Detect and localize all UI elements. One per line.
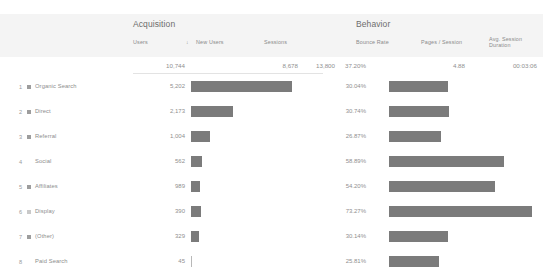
row-rank: 4 bbox=[14, 159, 22, 165]
users-bar bbox=[191, 206, 201, 217]
channel-name-link[interactable]: Paid Search bbox=[35, 258, 68, 264]
bounce-rate-bar bbox=[389, 131, 441, 142]
users-value: 329 bbox=[175, 233, 185, 239]
users-bar bbox=[191, 156, 202, 167]
table-row[interactable]: 7(Other)32930.14% bbox=[0, 226, 543, 251]
bounce-rate-value: 30.74% bbox=[346, 108, 366, 114]
channel-name-link[interactable]: Direct bbox=[35, 108, 51, 114]
row-color-swatch-icon bbox=[27, 260, 31, 264]
users-bar bbox=[191, 231, 199, 242]
column-header-sessions[interactable]: Sessions bbox=[264, 39, 287, 45]
row-color-swatch-icon bbox=[27, 210, 31, 214]
table-row[interactable]: 4Social56258.89% bbox=[0, 151, 543, 176]
total-bounce-rate: 37.20% bbox=[345, 62, 366, 69]
channel-name-link[interactable]: Referral bbox=[35, 133, 56, 139]
total-pages-session: 4.88 bbox=[453, 62, 465, 69]
users-value: 5,202 bbox=[170, 83, 185, 89]
column-header-new-users[interactable]: New Users bbox=[196, 39, 224, 45]
table-row[interactable]: 5Affiliates98954.20% bbox=[0, 176, 543, 201]
row-color-swatch-icon bbox=[27, 185, 31, 189]
total-sessions: 13,800 bbox=[316, 62, 335, 69]
column-header-pages-session[interactable]: Pages / Session bbox=[421, 39, 462, 45]
users-value: 2,173 bbox=[170, 108, 185, 114]
row-color-swatch-icon bbox=[27, 235, 31, 239]
table-header-band bbox=[0, 14, 543, 57]
bounce-rate-bar bbox=[389, 156, 504, 167]
row-rank: 6 bbox=[14, 209, 22, 215]
bounce-rate-value: 26.87% bbox=[346, 133, 366, 139]
users-bar bbox=[191, 181, 200, 192]
table-row[interactable]: 6Display39073.27% bbox=[0, 201, 543, 226]
bounce-rate-bar bbox=[389, 256, 439, 267]
total-avg-duration: 00:03:06 bbox=[513, 62, 537, 69]
bounce-rate-bar bbox=[389, 181, 495, 192]
bounce-rate-value: 30.04% bbox=[346, 83, 366, 89]
bounce-rate-bar bbox=[389, 231, 448, 242]
column-group-behavior: Behavior bbox=[356, 19, 390, 29]
users-bar bbox=[191, 106, 233, 117]
row-rank: 3 bbox=[14, 134, 22, 140]
users-bar bbox=[191, 256, 192, 267]
row-color-swatch-icon bbox=[27, 135, 31, 139]
bounce-rate-value: 58.89% bbox=[346, 158, 366, 164]
channel-name-link[interactable]: Display bbox=[35, 208, 55, 214]
bounce-rate-bar bbox=[389, 206, 532, 217]
table-row[interactable]: 3Referral1,00426.87% bbox=[0, 126, 543, 151]
row-color-swatch-icon bbox=[27, 160, 31, 164]
column-header-users[interactable]: Users bbox=[133, 39, 148, 45]
totals-divider bbox=[133, 73, 323, 74]
table-row[interactable]: 2Direct2,17330.74% bbox=[0, 101, 543, 126]
row-rank: 8 bbox=[14, 259, 22, 265]
row-rank: 1 bbox=[14, 84, 22, 90]
row-color-swatch-icon bbox=[27, 85, 31, 89]
total-new-users: 8,678 bbox=[283, 62, 298, 69]
bounce-rate-bar bbox=[389, 106, 449, 117]
column-header-avg-duration-line2: Duration bbox=[489, 42, 511, 48]
column-header-bounce-rate[interactable]: Bounce Rate bbox=[356, 39, 389, 45]
row-color-swatch-icon bbox=[27, 110, 31, 114]
users-value: 45 bbox=[178, 258, 185, 264]
column-group-acquisition: Acquisition bbox=[133, 19, 175, 29]
bounce-rate-value: 30.14% bbox=[346, 233, 366, 239]
bounce-rate-value: 25.81% bbox=[346, 258, 366, 264]
users-value: 562 bbox=[175, 158, 185, 164]
row-rank: 5 bbox=[14, 184, 22, 190]
analytics-channels-report: Acquisition Behavior Users ↓ New Users S… bbox=[0, 0, 543, 279]
users-bar bbox=[191, 131, 210, 142]
total-users: 10,744 bbox=[166, 62, 185, 69]
bounce-rate-value: 54.20% bbox=[346, 183, 366, 189]
channel-name-link[interactable]: Organic Search bbox=[35, 83, 77, 89]
users-bar bbox=[191, 81, 292, 92]
row-rank: 7 bbox=[14, 234, 22, 240]
table-row[interactable]: 1Organic Search5,20230.04% bbox=[0, 76, 543, 101]
sort-descending-icon[interactable]: ↓ bbox=[186, 39, 189, 45]
row-rank: 2 bbox=[14, 109, 22, 115]
users-value: 390 bbox=[175, 208, 185, 214]
users-value: 1,004 bbox=[170, 133, 185, 139]
channel-name-link[interactable]: (Other) bbox=[35, 233, 54, 239]
channel-name-link[interactable]: Social bbox=[35, 158, 51, 164]
table-row[interactable]: 8Paid Search4525.81% bbox=[0, 251, 543, 276]
users-value: 989 bbox=[175, 183, 185, 189]
bounce-rate-bar bbox=[389, 81, 448, 92]
bounce-rate-value: 73.27% bbox=[346, 208, 366, 214]
channel-name-link[interactable]: Affiliates bbox=[35, 183, 58, 189]
